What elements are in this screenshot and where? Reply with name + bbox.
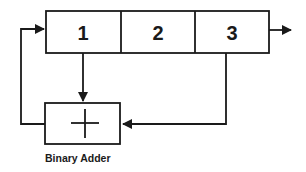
register-cell-1: 1 bbox=[77, 22, 88, 44]
shift-register-diagram: 1 2 3 Binary Adder bbox=[0, 0, 306, 172]
register-cell-2: 2 bbox=[152, 22, 163, 44]
cell-3-label: 3 bbox=[226, 22, 237, 44]
register-cell-3: 3 bbox=[226, 22, 237, 44]
cell-2-label: 2 bbox=[152, 22, 163, 44]
adder-caption: Binary Adder bbox=[45, 152, 111, 164]
feedback-arrow bbox=[21, 29, 45, 124]
binary-adder bbox=[45, 103, 120, 144]
shift-register: 1 2 3 bbox=[46, 11, 269, 53]
cell3-to-adder-arrow bbox=[123, 53, 226, 124]
cell-1-label: 1 bbox=[77, 22, 88, 44]
